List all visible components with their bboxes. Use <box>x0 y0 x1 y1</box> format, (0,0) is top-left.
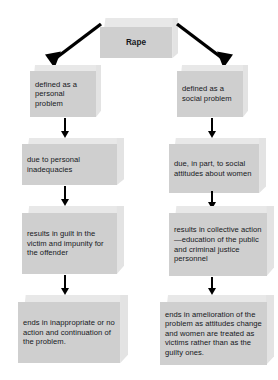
box-face: results in guilt in the victim and impun… <box>22 213 117 274</box>
box-face: ends in inappropriate or no action and c… <box>18 302 120 363</box>
node-label: due to personal inadequacies <box>22 155 117 174</box>
node-left-4: ends in inappropriate or no action and c… <box>18 295 128 363</box>
connector-right-3-to-4 <box>205 277 219 295</box>
arrow-shaft <box>64 275 66 289</box>
box-face: ends in amelioration of the problem as a… <box>160 302 267 365</box>
arrow-head <box>208 288 216 295</box>
node-left-2: due to personal inadequacies <box>22 138 124 185</box>
node-label: defined as a social problem <box>177 84 243 103</box>
node-label: due, in part, to social attitudes about … <box>169 159 259 178</box>
node-label: ends in inappropriate or no action and c… <box>18 318 120 347</box>
arrow-shaft <box>64 186 66 200</box>
node-right-3: results in collective action—education o… <box>169 206 274 276</box>
box-face: results in collective action—education o… <box>169 213 267 276</box>
node-label: Rape <box>100 38 172 48</box>
node-label: ends in amelioration of the problem as a… <box>160 310 267 358</box>
node-right-2: due, in part, to social attitudes about … <box>169 138 266 193</box>
arrow-shaft <box>64 118 66 132</box>
box-face: due to personal inadequacies <box>22 144 117 185</box>
node-left-1: defined as a personal problem <box>30 65 101 117</box>
node-left-3: results in guilt in the victim and impun… <box>22 206 124 274</box>
node-root-rape: Rape <box>100 18 178 58</box>
arrow-head <box>208 131 216 138</box>
node-right-1: defined as a social problem <box>177 65 248 117</box>
connector-left-1-to-2 <box>58 118 72 138</box>
arrow-head <box>61 199 69 206</box>
node-label: defined as a personal problem <box>30 80 96 109</box>
node-label: results in guilt in the victim and impun… <box>22 229 117 258</box>
box-face: defined as a social problem <box>177 71 243 117</box>
arrow-head <box>61 131 69 138</box>
box-face: Rape <box>100 27 172 58</box>
connector-right-1-to-2 <box>205 118 219 138</box>
arrow-head <box>61 288 69 295</box>
box-face: due, in part, to social attitudes about … <box>169 144 259 193</box>
connector-left-2-to-3 <box>58 186 72 206</box>
node-right-4: ends in amelioration of the problem as a… <box>160 295 274 365</box>
connector-left-3-to-4 <box>58 275 72 295</box>
box-face: defined as a personal problem <box>30 71 96 117</box>
arrow-shaft <box>211 118 213 132</box>
node-label: results in collective action—education o… <box>169 225 267 263</box>
flowchart-diagram: Rape defined as a personal problem due t… <box>0 0 278 380</box>
